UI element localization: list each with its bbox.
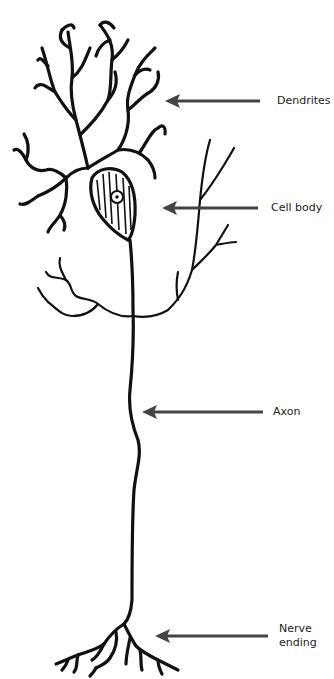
label-nerve-ending-line2: ending [279, 636, 317, 650]
axon-arrow [142, 405, 263, 419]
dendrites-drawing [14, 22, 165, 232]
dendrites-arrow [165, 94, 260, 108]
nucleolus [115, 195, 119, 199]
neuron-diagram: Dendrites Cell body Axon Nerve ending [0, 0, 334, 679]
axon-collaterals-drawing [38, 140, 236, 317]
label-nerve-ending-line1: Nerve [279, 622, 312, 636]
label-dendrites: Dendrites [277, 94, 331, 108]
label-cell-body: Cell body [271, 201, 322, 215]
cell-body-drawing [91, 169, 135, 240]
axon-drawing [124, 240, 139, 624]
cell-body-arrow [162, 201, 258, 215]
label-axon: Axon [273, 405, 300, 419]
nerve-ending-drawing [56, 624, 178, 676]
nerve-ending-arrow [155, 629, 268, 643]
